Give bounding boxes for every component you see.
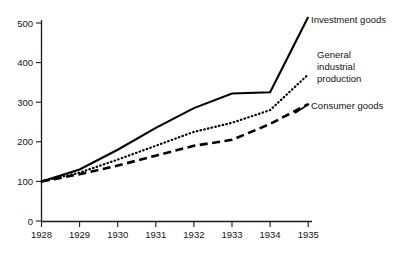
x-tick-label-1935: 1935 <box>298 229 319 240</box>
chart-series <box>42 17 309 181</box>
series-annotations: Investment goods General industrial prod… <box>311 14 386 111</box>
x-tick-label-1928: 1928 <box>31 229 52 240</box>
x-tick-label-1929: 1929 <box>69 229 90 240</box>
y-tick-label-200: 200 <box>17 136 33 147</box>
annotation-consumer-goods: Consumer goods <box>311 100 384 111</box>
chart-page: 500 400 300 200 100 0 1928 1929 1930 193… <box>0 0 403 256</box>
series-line-general-industrial-production <box>42 74 309 181</box>
y-tick-label-300: 300 <box>17 97 33 108</box>
annotation-investment-goods: Investment goods <box>311 14 386 25</box>
y-tick-label-500: 500 <box>17 18 33 29</box>
x-tick-label-1930: 1930 <box>107 229 128 240</box>
x-tick-label-1932: 1932 <box>183 229 204 240</box>
annotation-general-line3: production <box>317 73 361 84</box>
y-tick-label-0: 0 <box>28 216 33 227</box>
x-tick-label-1934: 1934 <box>260 229 281 240</box>
series-line-consumer-goods <box>42 104 309 181</box>
series-line-investment-goods <box>42 17 309 181</box>
x-tick-marks <box>42 222 309 228</box>
y-tick-marks <box>36 23 42 221</box>
annotation-general-line1: General <box>317 49 351 60</box>
x-tick-labels: 1928 1929 1930 1931 1932 1933 1934 1935 <box>31 229 319 240</box>
x-tick-label-1933: 1933 <box>221 229 242 240</box>
y-tick-label-100: 100 <box>17 176 33 187</box>
y-tick-labels: 500 400 300 200 100 0 <box>17 18 33 227</box>
chart-axes <box>42 20 313 222</box>
x-tick-label-1931: 1931 <box>145 229 166 240</box>
y-tick-label-400: 400 <box>17 57 33 68</box>
line-chart: 500 400 300 200 100 0 1928 1929 1930 193… <box>0 0 403 256</box>
annotation-general-line2: industrial <box>317 61 355 72</box>
